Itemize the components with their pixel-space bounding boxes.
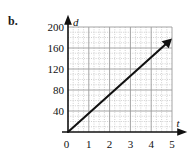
y-axis-arrow: [65, 17, 70, 24]
y-tick-label: 40: [53, 105, 65, 117]
y-tick-label: 200: [48, 21, 65, 33]
data-line: [68, 44, 167, 133]
x-axis-tick-labels: 0 1 2 3 4 5: [64, 138, 176, 150]
x-tick-label: 4: [148, 138, 154, 150]
y-tick-label: 120: [48, 63, 65, 75]
x-tick-label: 3: [128, 138, 134, 150]
y-tick-label: 80: [53, 84, 65, 96]
part-label: b.: [8, 14, 18, 29]
figure-panel: b.: [0, 0, 192, 158]
x-tick-label: 5: [169, 138, 175, 150]
x-axis-arrow: [178, 129, 185, 134]
x-axis-label: t: [176, 117, 180, 129]
y-tick-label: 160: [48, 42, 65, 54]
y-axis-label: d: [73, 16, 79, 28]
grid-minor: [68, 27, 172, 132]
x-tick-label: 0: [64, 138, 70, 150]
y-axis-tick-labels: 40 80 120 160 200: [48, 21, 65, 117]
line-chart: 40 80 120 160 200 0 1 2 3 4 5 d t: [0, 0, 192, 158]
x-tick-label: 1: [86, 138, 92, 150]
x-tick-label: 2: [107, 138, 113, 150]
